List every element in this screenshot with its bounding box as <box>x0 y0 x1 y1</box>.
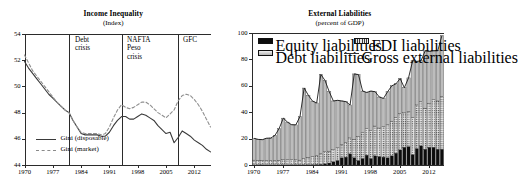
bar-debt-liabilities-1978 <box>285 122 288 160</box>
bar-equity-liabilities-1993 <box>348 154 351 165</box>
bar-fdi-liabilities-1971 <box>256 160 259 164</box>
left-chart-title: Income Inequality <box>0 9 227 18</box>
bar-debt-liabilities-2007 <box>406 78 409 112</box>
bar-equity-liabilities-1996 <box>360 158 363 165</box>
bar-debt-liabilities-2009 <box>415 61 418 105</box>
bar-fdi-liabilities-2004 <box>394 117 397 153</box>
bar-fdi-liabilities-1982 <box>302 159 305 165</box>
bar-stack-1990 <box>335 100 338 165</box>
bar-fdi-liabilities-2001 <box>381 127 384 157</box>
left-y-tickmark-50 <box>22 86 25 87</box>
bar-fdi-liabilities-1983 <box>306 157 309 164</box>
bar-equity-liabilities-2005 <box>398 150 401 165</box>
bar-debt-liabilities-1972 <box>260 140 263 161</box>
bar-equity-liabilities-2001 <box>381 157 384 165</box>
left-y-tick-label-46: 46 <box>3 135 21 141</box>
bar-equity-liabilities-2002 <box>386 158 389 165</box>
left-y-tick-label-48: 48 <box>3 109 21 115</box>
bar-fdi-liabilities-1975 <box>273 161 276 165</box>
bar-stack-2007 <box>406 78 409 165</box>
bar-stack-1970 <box>252 138 255 165</box>
left-legend-label-0: Gini (disposable) <box>61 134 109 142</box>
bar-fdi-liabilities-2002 <box>386 125 389 158</box>
left-x-tick-label-2005: 2005 <box>152 168 180 175</box>
bar-equity-liabilities-2012 <box>427 147 430 165</box>
left-legend-swatch-dashed <box>36 150 56 151</box>
bar-equity-liabilities-2011 <box>423 149 426 165</box>
bar-fdi-liabilities-1986 <box>319 154 322 165</box>
bar-debt-liabilities-2005 <box>398 79 401 114</box>
bar-equity-liabilities-2003 <box>390 156 393 165</box>
bar-stack-1974 <box>269 138 272 165</box>
bar-equity-liabilities-1990 <box>335 160 338 165</box>
bar-debt-liabilities-2004 <box>394 84 397 118</box>
left-event-line-1 <box>122 34 123 165</box>
bar-fdi-liabilities-1995 <box>356 137 359 161</box>
bar-debt-liabilities-1986 <box>319 74 322 153</box>
bar-equity-liabilities-1987 <box>323 164 326 165</box>
left-y-tick-label-54: 54 <box>3 31 21 37</box>
bar-fdi-liabilities-1972 <box>260 160 263 164</box>
bar-debt-liabilities-2002 <box>386 92 389 125</box>
bar-debt-liabilities-2003 <box>390 86 393 122</box>
bar-stack-2003 <box>390 86 393 165</box>
left-x-tick-label-1984: 1984 <box>67 168 95 175</box>
bar-stack-1973 <box>264 138 267 165</box>
bar-debt-liabilities-1977 <box>281 118 284 160</box>
bar-fdi-liabilities-1987 <box>323 152 326 164</box>
bar-stack-1986 <box>319 74 322 165</box>
bar-debt-liabilities-1996 <box>360 91 363 133</box>
bar-equity-liabilities-1991 <box>340 158 343 165</box>
bar-fdi-liabilities-1974 <box>269 161 272 165</box>
bar-debt-liabilities-1976 <box>277 129 280 161</box>
bar-debt-liabilities-1987 <box>323 81 326 152</box>
bar-debt-liabilities-2001 <box>381 98 384 126</box>
left-event-line-2 <box>178 34 179 165</box>
bar-stack-2005 <box>398 79 401 165</box>
bar-equity-liabilities-2008 <box>411 154 414 165</box>
left-x-tick-label-1977: 1977 <box>39 168 67 175</box>
bar-equity-liabilities-2013 <box>431 147 434 165</box>
bar-fdi-liabilities-1998 <box>369 131 372 159</box>
bar-debt-liabilities-1997 <box>365 92 368 128</box>
bar-fdi-liabilities-1978 <box>285 160 288 165</box>
right-legend-swatch-gray <box>258 50 273 56</box>
bar-equity-liabilities-1997 <box>365 155 368 165</box>
bar-fdi-liabilities-1992 <box>344 143 347 158</box>
bar-fdi-liabilities-2003 <box>390 121 393 155</box>
bar-stack-1980 <box>294 125 297 165</box>
bar-stack-1993 <box>348 105 351 165</box>
bar-equity-liabilities-1994 <box>352 158 355 165</box>
bar-equity-liabilities-2009 <box>415 149 418 166</box>
bar-fdi-liabilities-1976 <box>277 160 280 164</box>
bar-stack-1972 <box>260 140 263 166</box>
bar-stack-2008 <box>411 61 414 165</box>
bar-stack-1998 <box>369 91 372 165</box>
bar-fdi-liabilities-2006 <box>402 113 405 147</box>
panel-income-inequality: Income Inequality (Index) 44464850525419… <box>0 0 227 190</box>
bar-debt-liabilities-1980 <box>294 125 297 160</box>
left-legend-label-1: Gini (market) <box>61 145 99 153</box>
bar-debt-liabilities-2006 <box>402 88 405 113</box>
bar-debt-liabilities-1975 <box>273 135 276 160</box>
bar-fdi-liabilities-1991 <box>340 145 343 158</box>
bar-equity-liabilities-2004 <box>394 153 397 165</box>
bar-stack-2000 <box>377 97 380 165</box>
bar-debt-liabilities-1981 <box>298 117 301 161</box>
bar-stack-2006 <box>402 88 405 165</box>
bar-stack-1985 <box>315 103 318 165</box>
bar-equity-liabilities-1989 <box>331 162 334 165</box>
bar-fdi-liabilities-1984 <box>310 157 313 165</box>
bar-debt-liabilities-1995 <box>356 75 359 137</box>
right-legend-swatch-fdi <box>354 38 369 44</box>
right-legend-swatch-line <box>344 53 359 54</box>
bar-equity-liabilities-2014 <box>436 149 439 165</box>
bar-debt-liabilities-1970 <box>252 138 255 160</box>
bar-stack-1991 <box>340 101 343 165</box>
left-y-tickmark-48 <box>22 113 25 114</box>
bar-stack-1987 <box>323 81 326 165</box>
bar-stack-1995 <box>356 75 359 165</box>
bar-fdi-liabilities-2007 <box>406 112 409 147</box>
bar-stack-1999 <box>373 92 376 165</box>
bar-stack-2011 <box>423 51 426 165</box>
